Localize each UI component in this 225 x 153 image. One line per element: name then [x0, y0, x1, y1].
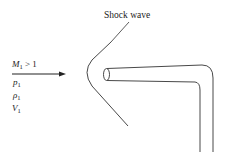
shock-wave-diagram: Shock wave M1 > 1 p1 ρ1 V1 [0, 0, 225, 152]
shock-leader-line [111, 22, 129, 42]
pressure-label: p1 [12, 77, 21, 88]
bow-shock-curve [87, 42, 128, 126]
probe-outer-wall [107, 65, 213, 152]
density-label: ρ1 [12, 90, 21, 101]
velocity-label: V1 [12, 103, 21, 114]
shock-wave-label: Shock wave [104, 10, 150, 20]
mach-label: M1 > 1 [11, 59, 37, 70]
probe-nose-opening [104, 69, 110, 81]
freestream-arrow-head-icon [59, 72, 66, 77]
probe-inner-wall [107, 81, 200, 153]
